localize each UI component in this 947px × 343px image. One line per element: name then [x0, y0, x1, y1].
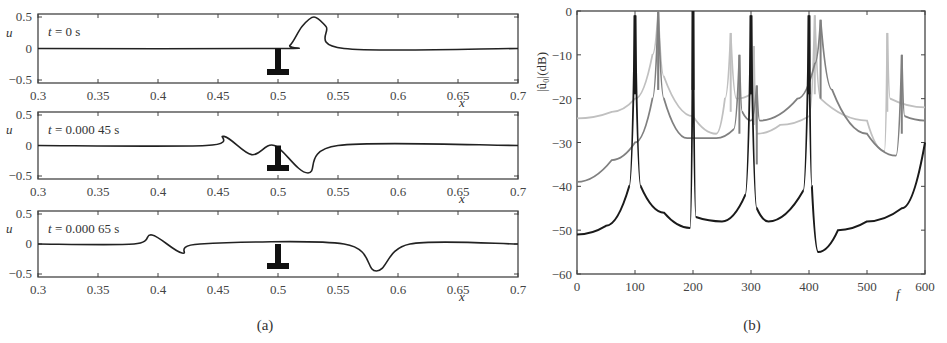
- caption-b: (b): [743, 317, 761, 334]
- y-tick-label: −30: [552, 136, 572, 151]
- x-tick-label: 0.4: [150, 184, 167, 199]
- time-annotation: t = 0.000 65 s: [48, 221, 119, 236]
- x-tick-label: 200: [683, 279, 703, 294]
- x-tick-label: 0.45: [207, 184, 230, 199]
- time-annotation: t = 0.000 45 s: [48, 122, 119, 137]
- y-axis-label: |û₀|(dB): [534, 52, 549, 92]
- x-axis-label: x: [458, 95, 465, 110]
- x-tick-label: 0.35: [87, 184, 110, 199]
- x-tick-label: 400: [799, 279, 819, 294]
- x-tick-label: 0.6: [390, 88, 407, 103]
- x-tick-label: 0.7: [510, 184, 527, 199]
- obstacle-marker: [275, 244, 281, 265]
- x-axis-label: x: [458, 289, 465, 304]
- x-tick-label: 0.55: [327, 88, 350, 103]
- y-tick-label: −40: [552, 179, 572, 194]
- x-tick-label: 0.55: [327, 282, 350, 297]
- x-tick-label: 0: [574, 279, 581, 294]
- x-tick-label: 0.6: [390, 282, 407, 297]
- panel-a: 0.30.350.40.450.50.550.60.650.70.50−0.5u…: [6, 9, 527, 334]
- subplot-1: 0.30.350.40.450.50.550.60.650.70.50−0.5u…: [6, 9, 527, 110]
- obstacle-marker: [275, 49, 281, 72]
- subplot-3: 0.30.350.40.450.50.550.60.650.70.50−0.5u…: [6, 206, 527, 304]
- x-tick-label: 500: [857, 279, 877, 294]
- x-tick-label: 600: [915, 279, 935, 294]
- y-axis-label: u: [6, 122, 13, 137]
- y-tick-label: 0.5: [16, 107, 32, 122]
- x-tick-label: 0.3: [30, 88, 46, 103]
- x-tick-label: 0.4: [150, 282, 167, 297]
- x-tick-label: 0.5: [270, 282, 286, 297]
- x-tick-label: 0.5: [270, 184, 286, 199]
- panel-b: 01002003004005006000−10−20−30−40−50−60|û…: [534, 4, 935, 334]
- x-tick-label: 100: [625, 279, 645, 294]
- x-tick-label: 0.5: [270, 88, 286, 103]
- x-tick-label: 0.3: [30, 282, 46, 297]
- y-tick-label: 0: [26, 41, 33, 56]
- x-tick-label: 0.45: [207, 88, 230, 103]
- x-tick-label: 0.4: [150, 88, 167, 103]
- y-tick-label: −20: [552, 92, 572, 107]
- y-axis-label: u: [6, 25, 13, 40]
- y-tick-label: −0.5: [8, 266, 32, 281]
- caption-a: (a): [257, 317, 274, 334]
- y-tick-label: 0: [566, 4, 573, 19]
- x-tick-label: 0.35: [87, 88, 110, 103]
- y-tick-label: 0.5: [16, 206, 32, 221]
- x-tick-label: 0.7: [510, 88, 527, 103]
- figure-canvas: 0.30.350.40.450.50.550.60.650.70.50−0.5u…: [0, 0, 947, 343]
- x-tick-label: 0.55: [327, 184, 350, 199]
- y-tick-label: −50: [552, 223, 572, 238]
- x-axis-label: x: [458, 191, 465, 206]
- x-tick-label: 0.45: [207, 282, 230, 297]
- x-tick-label: 300: [741, 279, 761, 294]
- x-tick-label: 0.65: [447, 88, 470, 103]
- subplot-2: 0.30.350.40.450.50.550.60.650.70.50−0.5u…: [6, 107, 527, 206]
- x-axis-label: f: [896, 286, 902, 301]
- x-tick-label: 0.3: [30, 184, 46, 199]
- y-axis-label: u: [6, 221, 13, 236]
- x-tick-label: 0.65: [447, 184, 470, 199]
- x-tick-label: 0.6: [390, 184, 407, 199]
- y-tick-label: −10: [552, 48, 572, 63]
- y-tick-label: −0.5: [8, 72, 32, 87]
- obstacle-marker: [275, 146, 281, 168]
- y-tick-label: 0: [26, 236, 33, 251]
- y-tick-label: 0.5: [16, 9, 32, 24]
- y-tick-label: 0: [26, 138, 33, 153]
- y-tick-label: −0.5: [8, 168, 32, 183]
- x-tick-label: 0.35: [87, 282, 110, 297]
- time-annotation: t = 0 s: [48, 24, 80, 39]
- wave-curve: [38, 17, 518, 50]
- y-tick-label: −60: [552, 267, 572, 282]
- x-tick-label: 0.65: [447, 282, 470, 297]
- x-tick-label: 0.7: [510, 282, 527, 297]
